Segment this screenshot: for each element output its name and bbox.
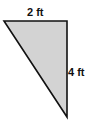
triangle-shape [0,0,89,123]
top-side-length-label: 2 ft [27,7,44,18]
triangle-diagram: 2 ft 4 ft [0,0,89,123]
right-side-length-label: 4 ft [68,67,85,78]
